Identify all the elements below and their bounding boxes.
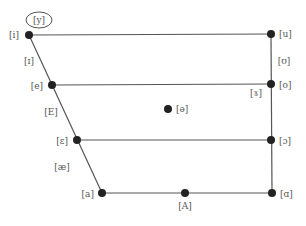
dot-open-o <box>267 136 275 144</box>
dot-open-e <box>73 136 81 144</box>
label-cap-a: [A] <box>178 201 192 211</box>
label-schwa: [ə] <box>176 104 188 114</box>
dot-u <box>267 30 275 38</box>
label-open-e: [ɛ] <box>56 136 68 146</box>
label-u: [u] <box>279 29 292 39</box>
dot-script-a <box>268 189 276 197</box>
vowel-chart: [y] [i] [ɪ] [e] [E] [ɛ] [æ] [a] [A] [ɑ] … <box>0 0 306 226</box>
label-rams-horn: [ɤ] <box>250 88 262 98</box>
top-edge <box>29 34 271 35</box>
label-o: [o] <box>279 80 291 90</box>
label-open-o: [ɔ] <box>279 136 291 146</box>
dot-i <box>25 31 33 39</box>
label-y: [y] <box>33 15 45 25</box>
label-script-a: [ɑ] <box>280 189 293 199</box>
dot-schwa <box>164 105 172 113</box>
vowel-labels: [y] [i] [ɪ] [e] [E] [ɛ] [æ] [a] [A] [ɑ] … <box>9 15 293 211</box>
dot-o <box>267 80 275 88</box>
label-ae: [æ] <box>54 162 69 172</box>
label-i: [i] <box>9 30 19 40</box>
back-edge <box>271 34 272 193</box>
label-small-i: [ɪ] <box>24 56 34 66</box>
dot-a <box>98 189 106 197</box>
label-upsilon: [ʊ] <box>278 56 291 66</box>
label-a: [a] <box>82 189 94 199</box>
label-e: [e] <box>31 81 43 91</box>
close-mid-edge <box>52 84 271 85</box>
label-cap-e: [E] <box>44 107 58 117</box>
dot-e <box>48 81 56 89</box>
dot-cap-a <box>181 189 189 197</box>
